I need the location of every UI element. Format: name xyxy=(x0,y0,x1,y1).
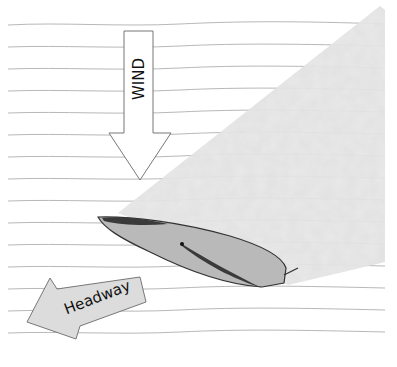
mast-icon xyxy=(180,242,184,246)
sailing-diagram: WIND Headway xyxy=(0,0,397,367)
wind-label: WIND xyxy=(130,58,148,100)
headway-arrow: Headway xyxy=(27,276,146,339)
wind-arrow: WIND xyxy=(109,31,171,180)
